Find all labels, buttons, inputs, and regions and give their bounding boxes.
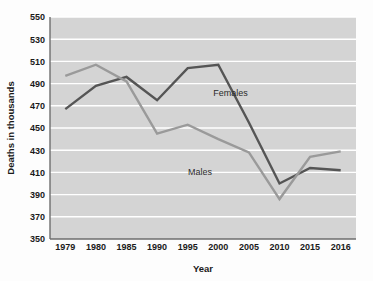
y-axis-tick-label: 450 xyxy=(30,123,45,133)
series-annotation-females: Females xyxy=(213,88,248,98)
x-axis-tick-label: 2015 xyxy=(300,242,320,252)
x-axis-tick-label: 1979 xyxy=(55,242,75,252)
y-axis-tick-label: 430 xyxy=(30,146,45,156)
x-axis-tick-label: 2000 xyxy=(208,242,228,252)
y-axis-tick-label: 490 xyxy=(30,79,45,89)
line-chart: 350370390410430450470490510530550 197919… xyxy=(0,0,373,281)
y-axis-tick-label: 370 xyxy=(30,212,45,222)
y-axis-tick-label: 530 xyxy=(30,35,45,45)
x-axis-tick-label: 1980 xyxy=(86,242,106,252)
x-axis-tick-label: 1995 xyxy=(178,242,198,252)
y-axis-tick-label: 410 xyxy=(30,168,45,178)
y-axis-tick-labels: 350370390410430450470490510530550 xyxy=(30,12,45,244)
y-axis-tick-label: 470 xyxy=(30,101,45,111)
x-axis-tick-labels: 1979198019851990199520002005201020152016 xyxy=(55,242,350,252)
series-annotation-males: Males xyxy=(188,167,213,177)
x-axis-tick-label: 1985 xyxy=(116,242,136,252)
chart-canvas: 350370390410430450470490510530550 197919… xyxy=(0,0,373,281)
x-axis-tick-label: 2016 xyxy=(331,242,351,252)
y-axis-tick-label: 350 xyxy=(30,234,45,244)
y-axis-tick-label: 510 xyxy=(30,57,45,67)
x-axis-tick-label: 2010 xyxy=(269,242,289,252)
x-axis-tick-label: 2005 xyxy=(239,242,259,252)
x-axis-title: Year xyxy=(193,263,213,274)
y-axis-tick-label: 390 xyxy=(30,190,45,200)
y-axis-title: Deaths in thousands xyxy=(5,81,16,174)
y-axis-tick-label: 550 xyxy=(30,12,45,22)
x-axis-tick-label: 1990 xyxy=(147,242,167,252)
